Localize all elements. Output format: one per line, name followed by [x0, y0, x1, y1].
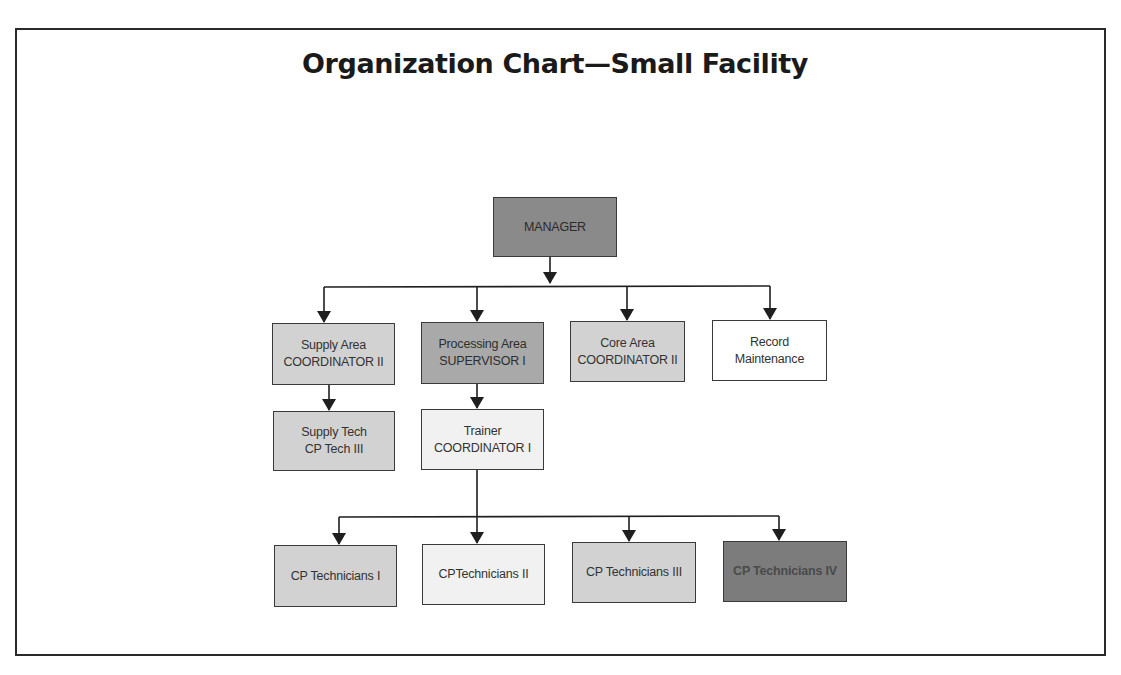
chart-frame: [15, 28, 1106, 656]
node-supply-area: Supply Area COORDINATOR II: [272, 323, 395, 385]
node-cp-technicians-2-label: CPTechnicians II: [439, 566, 529, 583]
node-manager-label: MANAGER: [524, 219, 586, 236]
node-record-maintenance-line1: Record: [750, 334, 789, 351]
node-processing-area: Processing Area SUPERVISOR I: [421, 322, 544, 384]
node-processing-area-line2: SUPERVISOR I: [439, 353, 525, 370]
node-cp-technicians-3: CP Technicians III: [572, 542, 696, 603]
node-trainer-line2: COORDINATOR I: [434, 440, 531, 457]
node-trainer-line1: Trainer: [464, 423, 502, 440]
node-cp-technicians-3-label: CP Technicians III: [586, 564, 682, 581]
node-processing-area-line1: Processing Area: [438, 336, 526, 353]
node-record-maintenance: Record Maintenance: [712, 320, 827, 381]
node-supply-tech-line1: Supply Tech: [301, 424, 367, 441]
node-cp-technicians-4-label: CP Technicians IV: [733, 563, 837, 580]
node-supply-area-line1: Supply Area: [301, 337, 366, 354]
chart-title: Organization Chart—Small Facility: [0, 48, 1100, 79]
node-supply-tech: Supply Tech CP Tech III: [273, 411, 395, 471]
node-trainer: Trainer COORDINATOR I: [421, 409, 544, 470]
node-supply-tech-line2: CP Tech III: [305, 441, 363, 458]
node-core-area-line2: COORDINATOR II: [577, 352, 677, 369]
node-core-area: Core Area COORDINATOR II: [570, 321, 685, 382]
node-cp-technicians-2: CPTechnicians II: [422, 544, 545, 605]
node-record-maintenance-line2: Maintenance: [735, 351, 804, 368]
node-cp-technicians-1: CP Technicians I: [274, 545, 397, 607]
node-cp-technicians-1-label: CP Technicians I: [291, 568, 380, 585]
node-core-area-line1: Core Area: [600, 335, 654, 352]
node-manager: MANAGER: [493, 197, 617, 257]
node-cp-technicians-4: CP Technicians IV: [723, 541, 847, 602]
node-supply-area-line2: COORDINATOR II: [283, 354, 383, 371]
